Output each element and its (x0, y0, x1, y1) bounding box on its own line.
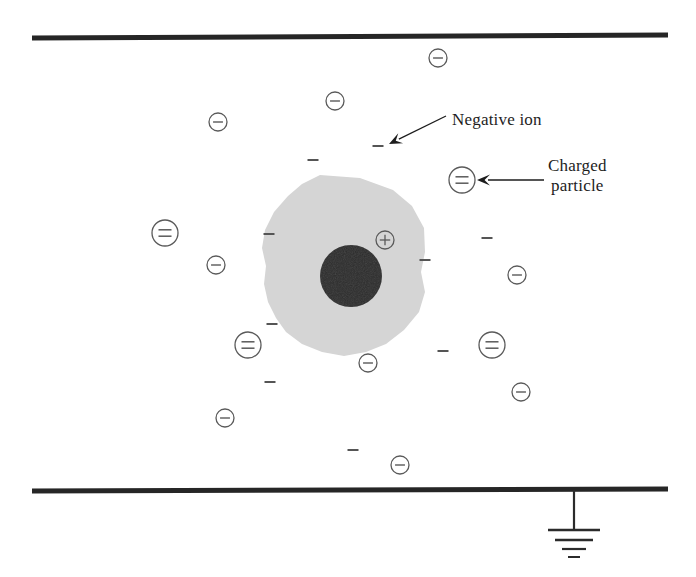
charged-particle (449, 167, 475, 193)
bottom-electrode (32, 489, 668, 491)
negative-ion (429, 49, 447, 67)
negative-ion-label: Negative ion (452, 110, 542, 130)
negative-ion (207, 256, 225, 274)
negative-ion (512, 383, 530, 401)
negative-ion-arrow (389, 116, 446, 144)
charged-particle-arrow (477, 175, 544, 186)
diagram-svg (0, 0, 696, 577)
top-electrode (32, 35, 668, 38)
ground-symbol-group (548, 490, 600, 557)
negative-ion (359, 354, 377, 372)
negative-ion (216, 409, 234, 427)
dust-particle-group (262, 175, 425, 356)
charged-particle-label: Charged particle (548, 156, 607, 196)
charged-particle (235, 332, 261, 358)
diagram-canvas: Negative ion Charged particle (0, 0, 696, 577)
particle-core-texture (320, 245, 382, 307)
negative-ion (209, 113, 227, 131)
charged-particle (152, 220, 178, 246)
negative-ion (508, 266, 526, 284)
negative-ion (391, 456, 409, 474)
charged-particle (479, 332, 505, 358)
negative-ion (326, 92, 344, 110)
